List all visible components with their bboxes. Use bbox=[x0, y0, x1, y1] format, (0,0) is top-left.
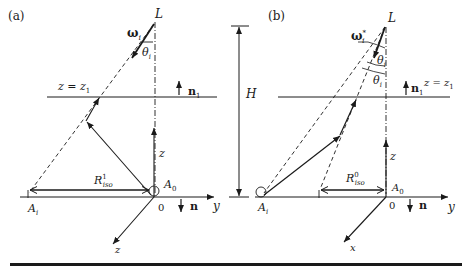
origin-zero-label: 0 bbox=[158, 202, 164, 213]
angle-label-2: θi bbox=[373, 74, 382, 89]
target-point-label: Ai bbox=[27, 202, 38, 217]
diagonal-axis bbox=[344, 197, 386, 242]
y-axis-label: y bbox=[447, 200, 455, 214]
incident-ray-dashed-outer bbox=[264, 27, 385, 193]
diagonal-axis-label: z bbox=[114, 244, 121, 255]
figure-canvas: (a) L ωi θi z = z1 n1 y z z A0 bbox=[0, 0, 470, 269]
panel-a: (a) L ωi θi z = z1 n1 y z z A0 bbox=[8, 7, 220, 255]
origin-zero-label: 0 bbox=[389, 200, 395, 211]
direction-symbol: ω*i bbox=[351, 29, 366, 45]
origin-point-label: A0 bbox=[163, 178, 176, 193]
panel-a-label: (a) bbox=[8, 9, 25, 23]
plane-normal-label: n1 bbox=[411, 82, 423, 97]
ground-normal-label: n bbox=[190, 200, 198, 213]
angle-label-1: θi bbox=[377, 54, 386, 69]
height-label: H bbox=[245, 87, 257, 101]
light-source-label: L bbox=[154, 7, 163, 21]
y-axis-label: y bbox=[212, 199, 220, 213]
bottom-rule bbox=[10, 263, 462, 266]
reflected-ray-segment-2 bbox=[86, 98, 99, 121]
incident-ray-dashed bbox=[29, 24, 154, 193]
radius-label: R0iso bbox=[345, 171, 365, 187]
panel-b: (b) L ω*i θi θi n1 z = z1 y z x bbox=[255, 9, 455, 253]
origin-point-label: A0 bbox=[391, 182, 404, 196]
ground-normal-label: n bbox=[419, 199, 427, 212]
plane-label: z = z1 bbox=[423, 77, 454, 91]
plane-label: z = z1 bbox=[57, 80, 90, 95]
direction-symbol: ωi bbox=[127, 26, 141, 42]
plane-normal-label: n1 bbox=[188, 85, 200, 100]
reflected-ray-segment-2 bbox=[340, 100, 356, 135]
diagonal-axis bbox=[113, 197, 154, 244]
angle-label: θi bbox=[142, 46, 151, 61]
z-axis-label: z bbox=[158, 147, 165, 160]
z-axis-label: z bbox=[389, 150, 396, 163]
panel-b-label: (b) bbox=[268, 9, 285, 23]
diagonal-axis-label: x bbox=[350, 242, 356, 253]
radius-label: R1iso bbox=[93, 173, 113, 189]
reflected-ray-segment-1 bbox=[264, 136, 340, 195]
target-point-label: Ai bbox=[257, 201, 268, 216]
height-marker: H bbox=[229, 26, 257, 197]
light-source-label: L bbox=[387, 11, 396, 25]
